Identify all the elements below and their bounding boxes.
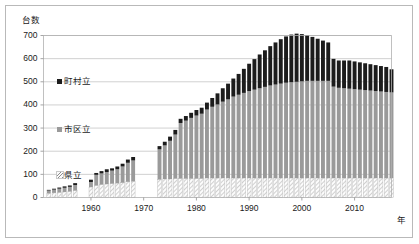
x-tick-label: 1970 bbox=[124, 203, 164, 213]
x-tick-label: 2000 bbox=[282, 203, 322, 213]
x-tick-label: 1990 bbox=[229, 203, 269, 213]
y-tick-label: 200 bbox=[12, 146, 38, 156]
x-tick-label: 1960 bbox=[71, 203, 111, 213]
y-tick-label: 100 bbox=[12, 169, 38, 179]
legend-label-ken-ritsu: 県立 bbox=[64, 168, 82, 180]
y-tick-label: 700 bbox=[12, 30, 38, 40]
y-tick-label: 500 bbox=[12, 76, 38, 86]
x-tick-label: 1980 bbox=[176, 203, 216, 213]
y-tick-label: 300 bbox=[12, 123, 38, 133]
legend-marker-choson-ritsu bbox=[57, 79, 62, 84]
y-tick-label: 600 bbox=[12, 53, 38, 63]
legend-marker-shiku-ritsu bbox=[57, 127, 62, 132]
bar-group bbox=[47, 34, 394, 198]
x-tick-label: 2010 bbox=[335, 203, 375, 213]
legend-label-shiku-ritsu: 市区立 bbox=[64, 122, 91, 134]
legend-marker-ken-ritsu bbox=[56, 171, 64, 179]
y-tick-label: 400 bbox=[12, 99, 38, 109]
legend-label-choson-ritsu: 町村立 bbox=[64, 74, 91, 86]
y-tick-label: 0 bbox=[12, 192, 38, 202]
